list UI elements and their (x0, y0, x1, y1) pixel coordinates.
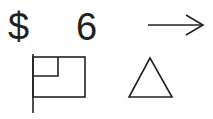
arrow-right-icon (148, 15, 203, 35)
triangle-icon (129, 58, 172, 97)
flag-icon (33, 54, 85, 113)
symbol-canvas (0, 0, 213, 119)
